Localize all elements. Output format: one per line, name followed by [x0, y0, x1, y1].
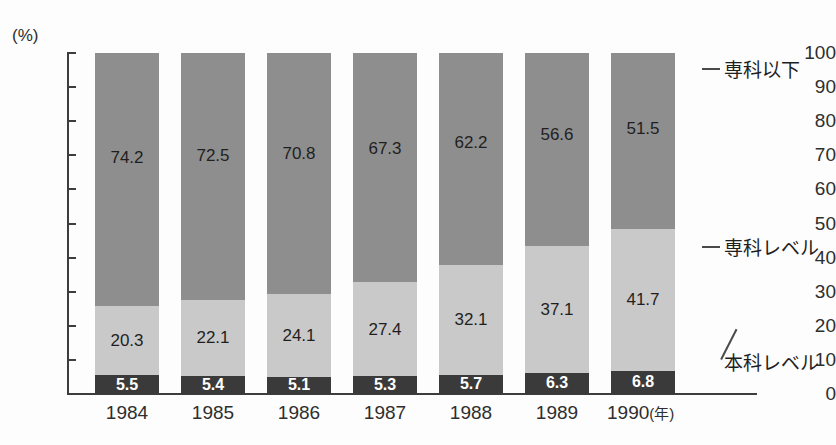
bar-segment-honka-level-1987-value: 5.3: [374, 377, 396, 393]
bar-segment-senka-ika-1986-value: 70.8: [282, 145, 315, 162]
bar-segment-senka-ika-1985-value: 72.5: [196, 147, 229, 164]
bar-segment-honka-level-1984[interactable]: 5.5: [95, 375, 159, 394]
bar-column-1988[interactable]: 62.232.15.7: [439, 53, 503, 394]
bar-segment-senka-level-1989[interactable]: 37.1: [525, 246, 589, 373]
bar-segment-senka-level-1985[interactable]: 22.1: [181, 300, 245, 375]
bar-segment-honka-level-1990-value: 6.8: [632, 374, 654, 390]
y-tick-label-30: 30: [784, 281, 836, 303]
bar-segment-senka-level-1986-value: 24.1: [282, 327, 315, 344]
bar-segment-senka-ika-1986[interactable]: 70.8: [267, 53, 331, 294]
bar-segment-senka-level-1984[interactable]: 20.3: [95, 306, 159, 375]
bar-segment-senka-level-1988-value: 32.1: [454, 311, 487, 328]
legend-leader-senka-ika: [702, 68, 720, 70]
bar-segment-senka-ika-1987[interactable]: 67.3: [353, 53, 417, 282]
legend-leader-senka-level: [702, 246, 720, 248]
x-axis-unit-label: (年): [649, 405, 674, 422]
x-axis-label-1988: 1988: [431, 402, 511, 424]
bar-segment-senka-ika-1990[interactable]: 51.5: [611, 53, 675, 229]
bar-segment-senka-level-1990[interactable]: 41.7: [611, 229, 675, 371]
bar-segment-senka-level-1990-value: 41.7: [626, 291, 659, 308]
bar-segment-honka-level-1984-value: 5.5: [116, 377, 138, 393]
y-tick-label-50: 50: [784, 213, 836, 235]
bar-segment-senka-ika-1988-value: 62.2: [454, 134, 487, 151]
bar-segment-honka-level-1986-value: 5.1: [288, 377, 310, 393]
x-axis-label-1986: 1986: [259, 402, 339, 424]
bar-segment-senka-ika-1984[interactable]: 74.2: [95, 53, 159, 306]
y-tick-label-60: 60: [784, 178, 836, 200]
bar-segment-senka-ika-1987-value: 67.3: [368, 140, 401, 157]
y-tick-label-80: 80: [784, 110, 836, 132]
plot-area: 74.220.35.572.522.15.470.824.15.167.327.…: [67, 53, 700, 394]
legend-label-honka-level: 本科レベル: [724, 348, 819, 375]
bar-segment-senka-level-1987[interactable]: 27.4: [353, 282, 417, 375]
bar-column-1989[interactable]: 56.637.16.3: [525, 53, 589, 394]
bar-column-1986[interactable]: 70.824.15.1: [267, 53, 331, 394]
stacked-bar-chart: (%) 1009080706050403020100 74.220.35.572…: [0, 0, 836, 445]
x-axis-label-1985: 1985: [173, 402, 253, 424]
bar-column-1987[interactable]: 67.327.45.3: [353, 53, 417, 394]
legend-label-senka-level: 専科レベル: [724, 233, 819, 260]
bar-segment-senka-ika-1985[interactable]: 72.5: [181, 53, 245, 300]
bar-segment-honka-level-1989[interactable]: 6.3: [525, 373, 589, 394]
x-axis-label-1990: 1990(年): [607, 402, 741, 424]
bar-segment-honka-level-1988[interactable]: 5.7: [439, 375, 503, 394]
legend-label-senka-ika: 専科以下: [724, 55, 800, 82]
x-axis-label-1987: 1987: [345, 402, 425, 424]
bar-segment-senka-ika-1984-value: 74.2: [110, 149, 143, 166]
bar-segment-honka-level-1986[interactable]: 5.1: [267, 377, 331, 394]
y-tick-label-70: 70: [784, 144, 836, 166]
y-axis-unit-label: (%): [12, 26, 38, 46]
bar-column-1985[interactable]: 72.522.15.4: [181, 53, 245, 394]
bar-segment-honka-level-1988-value: 5.7: [460, 376, 482, 392]
y-tick-label-0: 0: [784, 383, 836, 405]
bar-segment-honka-level-1985-value: 5.4: [202, 377, 224, 393]
bar-segment-senka-level-1989-value: 37.1: [540, 301, 573, 318]
bar-segment-senka-ika-1989[interactable]: 56.6: [525, 53, 589, 246]
bar-segment-senka-level-1985-value: 22.1: [196, 329, 229, 346]
bar-column-1990[interactable]: 51.541.76.8: [611, 53, 675, 394]
bar-segment-senka-ika-1988[interactable]: 62.2: [439, 53, 503, 265]
x-axis-label-1984: 1984: [87, 402, 167, 424]
bar-segment-senka-level-1986[interactable]: 24.1: [267, 294, 331, 376]
x-axis-label-1989: 1989: [517, 402, 597, 424]
bar-segment-senka-level-1984-value: 20.3: [110, 332, 143, 349]
bar-column-1984[interactable]: 74.220.35.5: [95, 53, 159, 394]
bar-segment-honka-level-1990[interactable]: 6.8: [611, 371, 675, 394]
bar-segment-senka-ika-1989-value: 56.6: [540, 126, 573, 143]
bar-segment-honka-level-1985[interactable]: 5.4: [181, 376, 245, 394]
y-tick-label-20: 20: [784, 315, 836, 337]
bar-segment-senka-level-1987-value: 27.4: [368, 321, 401, 338]
bar-segment-honka-level-1987[interactable]: 5.3: [353, 376, 417, 394]
bar-segment-honka-level-1989-value: 6.3: [546, 375, 568, 391]
bar-segment-senka-ika-1990-value: 51.5: [626, 120, 659, 137]
bar-segment-senka-level-1988[interactable]: 32.1: [439, 265, 503, 374]
